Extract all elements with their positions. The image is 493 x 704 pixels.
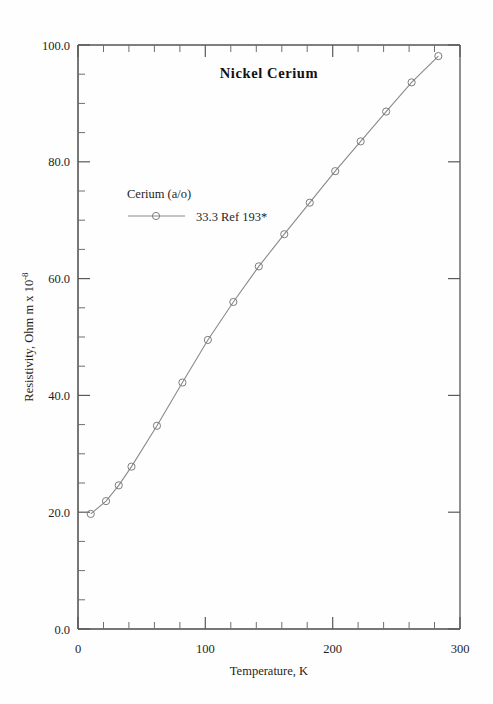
legend-header: Cerium (a/o) (127, 187, 191, 201)
x-tick-label: 200 (323, 642, 342, 656)
plot-frame (78, 45, 460, 629)
svg-text:Resistivity, Ohm m x 10-8: Resistivity, Ohm m x 10-8 (20, 272, 36, 402)
y-axis-right-ticks (448, 45, 460, 629)
chart-legend: Cerium (a/o) 33.3 Ref 193* (127, 187, 267, 224)
x-tick-label: 100 (196, 642, 215, 656)
chart-title: Nickel Cerium (220, 65, 318, 81)
y-axis-title-exponent: -8 (20, 272, 30, 280)
y-axis-ticks (78, 45, 90, 629)
y-axis-title: Resistivity, Ohm m x 10-8 (20, 272, 36, 402)
x-axis-ticks (78, 617, 460, 629)
x-axis-top-ticks (78, 45, 460, 57)
y-tick-label: 0.0 (54, 623, 70, 637)
series-line (91, 56, 439, 514)
x-tick-label: 300 (451, 642, 470, 656)
y-tick-labels: 0.0 20.0 40.0 60.0 80.0 100.0 (42, 39, 70, 637)
y-tick-label: 20.0 (48, 506, 70, 520)
legend-entry-label: 33.3 Ref 193* (196, 210, 267, 224)
legend-entry[interactable]: 33.3 Ref 193* (128, 210, 267, 224)
y-tick-label: 40.0 (48, 389, 70, 403)
y-tick-label: 100.0 (42, 39, 70, 53)
page-canvas: 0.0 20.0 40.0 60.0 80.0 100.0 (0, 0, 493, 704)
data-series-33-3 (87, 52, 442, 517)
x-axis-title: Temperature, K (230, 664, 308, 678)
x-tick-labels: 0 100 200 300 (75, 642, 470, 656)
y-tick-label: 80.0 (48, 155, 70, 169)
y-tick-label: 60.0 (48, 272, 70, 286)
y-axis-title-main: Resistivity, Ohm m x 10 (22, 280, 36, 402)
x-tick-label: 0 (75, 642, 81, 656)
resistivity-line-chart: 0.0 20.0 40.0 60.0 80.0 100.0 (0, 0, 493, 704)
chart-figure: 0.0 20.0 40.0 60.0 80.0 100.0 (0, 0, 493, 704)
